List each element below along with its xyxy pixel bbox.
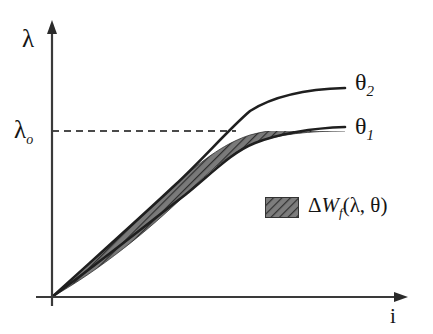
lambda-zero-symbol: λ	[14, 116, 26, 143]
x-axis-arrowhead	[394, 292, 408, 302]
theta1-symbol: θ	[355, 113, 367, 139]
figure-container: λ λo i θ2 θ1 ΔWf(λ, θ)	[0, 0, 433, 334]
lambda-zero-subscript: o	[26, 132, 33, 147]
lambda-zero-label: λo	[14, 117, 33, 147]
y-axis-arrowhead	[47, 20, 57, 34]
legend-symbol: W	[322, 193, 340, 217]
legend: ΔWf(λ, θ)	[265, 193, 387, 221]
legend-delta: Δ	[308, 193, 322, 217]
diagram-canvas	[0, 0, 433, 334]
curve-label-theta1: θ1	[355, 114, 374, 143]
theta1-subscript: 1	[367, 127, 375, 143]
curve-label-theta2: θ2	[355, 70, 374, 99]
theta2-symbol: θ	[355, 69, 367, 95]
legend-label: ΔWf(λ, θ)	[308, 193, 387, 221]
y-axis-label: λ	[22, 26, 34, 51]
x-axis-label: i	[390, 306, 396, 327]
theta2-subscript: 2	[367, 83, 375, 99]
legend-arguments: (λ, θ)	[343, 193, 388, 217]
legend-hatch-swatch-icon	[265, 197, 299, 218]
